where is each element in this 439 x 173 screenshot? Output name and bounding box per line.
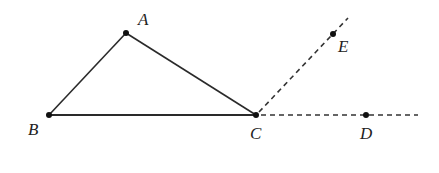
point-b (46, 112, 52, 118)
point-d (363, 112, 369, 118)
segment-ab (49, 33, 126, 115)
segment-ac (126, 33, 256, 115)
label-b: B (28, 120, 39, 139)
point-c (253, 112, 259, 118)
point-a (123, 30, 129, 36)
label-a: A (137, 10, 149, 29)
geometry-diagram: A B C D E (0, 0, 439, 173)
point-e (330, 31, 336, 37)
label-c: C (250, 124, 262, 143)
label-d: D (359, 124, 373, 143)
label-e: E (337, 37, 349, 56)
